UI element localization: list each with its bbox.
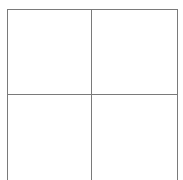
grid-middle-horizontal-line [7,94,178,95]
grid-cell-bottom-right [92,95,177,180]
grid-top-border [7,9,178,10]
grid-middle-vertical-line [91,9,92,180]
grid-cell-top-right [92,10,177,94]
grid-diagram [0,0,183,180]
grid-cell-bottom-left [8,95,91,180]
grid-cell-top-left [8,10,91,94]
grid-left-border [7,9,8,180]
grid-right-border [177,9,178,180]
